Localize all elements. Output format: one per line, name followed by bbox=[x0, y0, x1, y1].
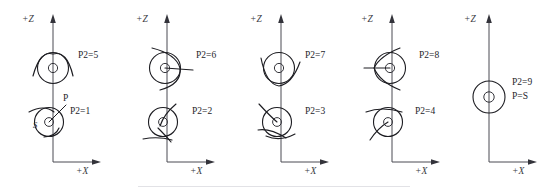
glyph-p2-2-outer-circle bbox=[149, 108, 178, 137]
glyph-p2-3-arc-lower bbox=[258, 130, 286, 138]
panel-5: +Z +X P2=9 P=S bbox=[464, 14, 537, 176]
panel-4-x-label: +X bbox=[415, 166, 428, 176]
panel-2-z-arrowhead bbox=[164, 14, 170, 23]
glyph-p2-3-diag-upper bbox=[259, 104, 277, 122]
glyph-p2-4-diag bbox=[370, 122, 388, 140]
glyph-p2-4 bbox=[366, 108, 403, 141]
p2-orientation-diagram: +Z +X P2=5 P S P2=1 bbox=[0, 0, 549, 193]
panel-2-x-label: +X bbox=[190, 166, 203, 176]
glyph-p2-5-label: P2=5 bbox=[78, 50, 98, 60]
panel-3-x-label: +X bbox=[304, 166, 317, 176]
glyph-p2-9-label: P2=9 bbox=[512, 77, 532, 87]
glyph-p2-7-inner-circle bbox=[274, 63, 283, 72]
glyph-p2-4-arc-upper bbox=[366, 109, 402, 112]
panel-1-z-arrowhead bbox=[50, 14, 56, 23]
glyph-p2-6 bbox=[150, 48, 194, 90]
panel-5-x-label: +X bbox=[512, 166, 525, 176]
panel-3-x-arrowhead bbox=[320, 159, 329, 165]
glyph-p2-3 bbox=[258, 104, 295, 139]
panel-5-x-arrowhead bbox=[528, 159, 537, 165]
glyph-p2-8-label: P2=8 bbox=[419, 50, 439, 60]
glyph-p2-2-label: P2=2 bbox=[192, 106, 212, 116]
glyph-p2-1-label: P2=1 bbox=[70, 106, 90, 116]
glyph-p2-3-label: P2=3 bbox=[305, 106, 325, 116]
panel-4: +Z +X P2=8 P2=4 bbox=[361, 14, 440, 176]
panel-1-z-label: +Z bbox=[22, 14, 34, 24]
glyph-p2-2 bbox=[143, 104, 178, 142]
panel-1: +Z +X P2=5 P S P2=1 bbox=[22, 14, 101, 176]
glyph-p2-6-label: P2=6 bbox=[196, 50, 216, 60]
glyph-p2-9-identity-label: P=S bbox=[512, 91, 528, 101]
panel-4-x-arrowhead bbox=[431, 159, 440, 165]
panel-5-z-label: +Z bbox=[464, 14, 476, 24]
panel-2-z-label: +Z bbox=[136, 14, 148, 24]
panel-1-x-label: +X bbox=[76, 166, 89, 176]
panel-3: +Z +X P2=7 P2=3 bbox=[250, 14, 329, 176]
footer-divider bbox=[138, 186, 410, 187]
glyph-p2-8 bbox=[364, 48, 406, 90]
panel-3-z-label: +Z bbox=[250, 14, 262, 24]
glyph-p2-4-label: P2=4 bbox=[415, 106, 435, 116]
panel-2-x-arrowhead bbox=[206, 159, 215, 165]
glyph-p2-1-point-label: P bbox=[63, 93, 68, 103]
panel-2: +Z +X P2=6 P2=2 bbox=[136, 14, 216, 176]
glyph-p2-1-arc-lower bbox=[44, 128, 59, 137]
panel-1-x-arrowhead bbox=[92, 159, 101, 165]
panel-3-z-arrowhead bbox=[278, 14, 284, 23]
panel-4-z-label: +Z bbox=[361, 14, 373, 24]
diagram-canvas: +Z +X P2=5 P S P2=1 bbox=[0, 0, 549, 193]
glyph-p2-7-label: P2=7 bbox=[305, 50, 325, 60]
panel-4-z-arrowhead bbox=[389, 14, 395, 23]
panel-5-z-arrowhead bbox=[486, 14, 492, 23]
glyph-p2-1-source-label: S bbox=[33, 120, 38, 130]
